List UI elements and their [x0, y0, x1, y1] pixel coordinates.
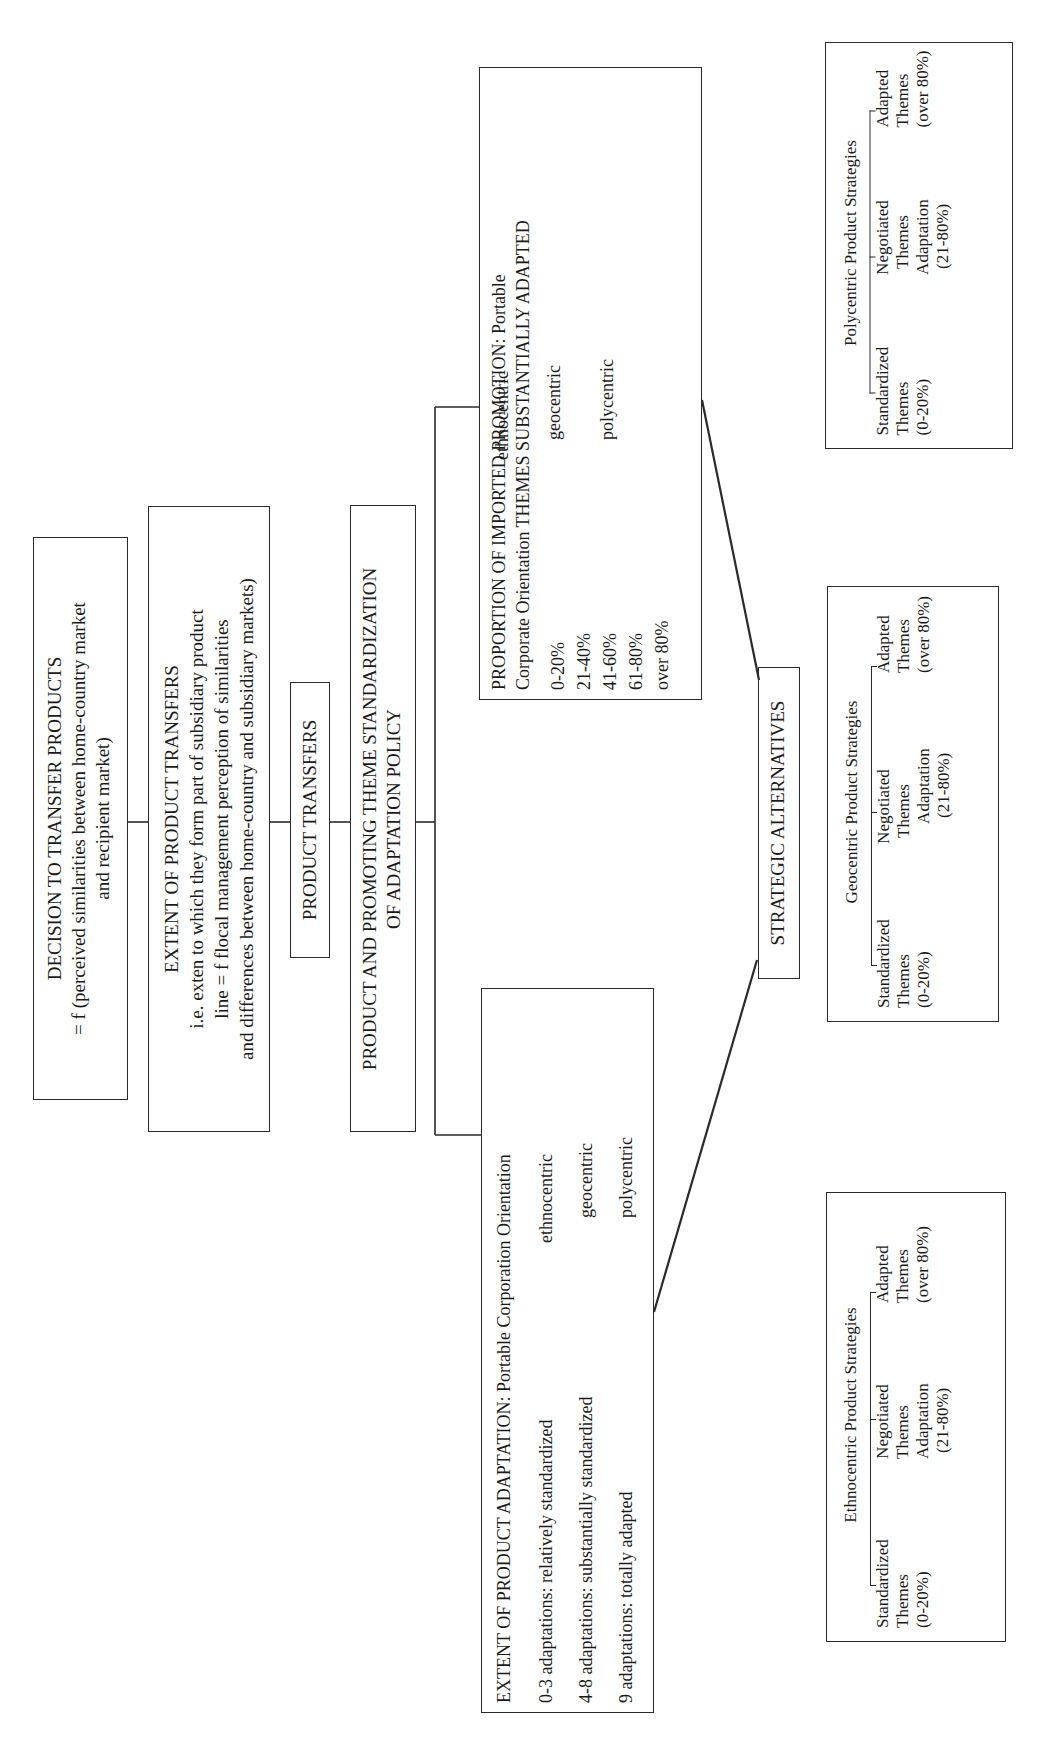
promotion-range: 61-80% — [623, 470, 649, 690]
adaptation-row: 4-8 adaptations: substantially standardi… — [571, 998, 601, 1703]
strategy-column-text: Themes — [893, 1226, 913, 1303]
strategy-column-text: Themes — [894, 596, 914, 673]
strategy-column-text: 0-3 adaptations: relatively standardized — [531, 1243, 561, 1703]
adaptation-title: EXTENT OF PRODUCT ADAPTATION: Portable C… — [489, 998, 519, 1703]
strategy-column-text: Themes — [894, 919, 914, 1008]
promotion-range: 21-40% — [571, 470, 597, 690]
strategy-column-text: Themes — [893, 1383, 913, 1459]
strategy-column-text: (21-80%) — [932, 199, 952, 275]
strategy-columns: StandardizedThemes(0-20%) NegotiatedThem… — [873, 1202, 953, 1628]
extent-transfers-title: EXTENT OF PRODUCT TRANSFERS — [159, 506, 184, 1132]
product-transfers-box: PRODUCT TRANSFERS — [290, 682, 330, 958]
promotion-box: PROPORTION OF IMPORTED PROMOTION: Portab… — [479, 67, 702, 700]
strategy-column-text: Themes — [893, 1539, 913, 1628]
strategy-column-text: geocentric — [571, 1143, 601, 1218]
strategy-column-text: Themes — [894, 748, 914, 844]
strategy-column-text: (0-20%) — [914, 919, 934, 1008]
extent-transfers-line1: i.e. exten to which they form part of su… — [184, 506, 209, 1132]
strategy-column-text: Standardized — [874, 919, 894, 1008]
strategy-column-text: (0-20%) — [912, 346, 932, 435]
strategy-column-text: Negotiated — [872, 199, 892, 275]
adaptation-box: EXTENT OF PRODUCT ADAPTATION: Portable C… — [481, 988, 654, 1713]
strategy-column-text: Adaptation — [912, 199, 932, 275]
strategic-title: STRATEGIC ALTERNATIVES — [766, 667, 790, 979]
strategy-column-text: Standardized — [872, 346, 892, 435]
strategy-column-text: 9 adaptations: totally adapted — [611, 1218, 641, 1703]
decision-title: DECISION TO TRANSFER PRODUCTS — [43, 537, 67, 1100]
strategy-column-text: 4-8 adaptations: substantially standardi… — [571, 1218, 601, 1703]
promotion-range: 0-20% — [545, 470, 571, 690]
strategy-column-text: (0-20%) — [913, 1539, 933, 1628]
strategy-column-text: (over 80%) — [914, 596, 934, 673]
strategy-column-text: (over 80%) — [912, 50, 932, 127]
promotion-orientation-ethnocentric: ethnocentric — [490, 371, 514, 460]
strategy-column-text: ethnocentric — [531, 1154, 561, 1243]
policy-line1: PRODUCT AND PROMOTING THEME STANDARDIZAT… — [357, 505, 381, 1132]
strategy-column-text: Themes — [892, 199, 912, 275]
promotion-range: 41-60% — [597, 470, 623, 690]
adaptation-row: 0-3 adaptations: relatively standardized… — [531, 998, 561, 1703]
strategy-columns: StandardizedThemes(0-20%) NegotiatedThem… — [874, 596, 954, 1008]
promotion-title-2: Corporate Orientation THEMES SUBSTANTIAL… — [511, 77, 535, 690]
polycentric-strategies-box: Polycentric Product Strategies Standardi… — [825, 42, 1013, 449]
strategy-column-text: Themes — [892, 50, 912, 127]
promotion-orientation-polycentric: polycentric — [595, 359, 619, 440]
strategy-column-text: Standardized — [873, 1539, 893, 1628]
strategy-column-text: Negotiated — [873, 1383, 893, 1459]
decision-box: DECISION TO TRANSFER PRODUCTS = f (perce… — [33, 537, 128, 1100]
extent-transfers-line3: and differences between home-country and… — [234, 506, 259, 1132]
strategy-column-text: Adapted — [873, 1226, 893, 1303]
strategy-column-text: Themes — [892, 346, 912, 435]
strategy-column-text: (21-80%) — [933, 1383, 953, 1459]
strategy-title: Polycentric Product Strategies — [839, 50, 860, 435]
strategy-title: Ethnocentric Product Strategies — [840, 1202, 861, 1628]
strategy-column-text: Negotiated — [874, 748, 894, 844]
strategy-columns: StandardizedThemes(0-20%) NegotiatedThem… — [872, 50, 952, 435]
product-transfers-title: PRODUCT TRANSFERS — [298, 682, 322, 958]
ethnocentric-strategies-box: Ethnocentric Product Strategies Standard… — [826, 1192, 1006, 1642]
policy-line2: OF ADAPTATION POLICY — [381, 505, 405, 1132]
adaptation-row: 9 adaptations: totally adapted polycentr… — [611, 998, 641, 1703]
strategy-column-text: Adapted — [872, 50, 892, 127]
strategic-alternatives-box: STRATEGIC ALTERNATIVES — [758, 667, 800, 979]
strategy-title: Geocentric Product Strategies — [841, 596, 862, 1008]
strategy-column-text: Adaptation — [914, 748, 934, 844]
policy-box: PRODUCT AND PROMOTING THEME STANDARDIZAT… — [350, 505, 416, 1132]
strategy-column-text: polycentric — [611, 1137, 641, 1218]
strategy-column-text: (21-80%) — [934, 748, 954, 844]
promotion-range: over 80% — [649, 470, 675, 690]
strategy-column-text: Adaptation — [913, 1383, 933, 1459]
decision-line1: = f (perceived similarities between home… — [67, 537, 91, 1100]
geocentric-strategies-box: Geocentric Product Strategies Standardiz… — [827, 586, 999, 1022]
strategy-column-text: Adapted — [874, 596, 894, 673]
promotion-orientation-geocentric: geocentric — [542, 365, 566, 440]
strategy-column-text: (over 80%) — [913, 1226, 933, 1303]
extent-transfers-box: EXTENT OF PRODUCT TRANSFERS i.e. exten t… — [148, 506, 270, 1132]
decision-line2: and recipient market) — [91, 537, 115, 1100]
extent-transfers-line2: line = f flocal management perception of… — [209, 506, 234, 1132]
